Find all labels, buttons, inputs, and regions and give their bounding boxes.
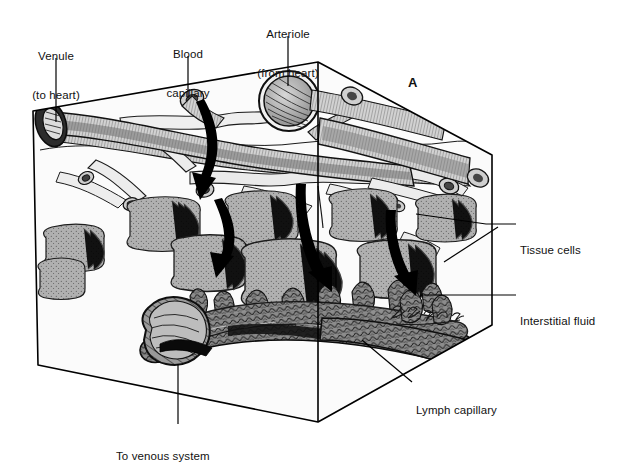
label-interstitial-fluid-text: Interstitial fluid xyxy=(520,315,618,328)
label-blood-capillary-line2: capillary xyxy=(138,87,238,100)
label-arteriole-line2: (from heart) xyxy=(229,67,347,80)
label-to-venous-system-text: To venous system xyxy=(116,450,256,463)
label-venule-line1: Venule xyxy=(6,50,106,63)
label-tissue-cells: Tissue cells xyxy=(520,218,616,270)
label-venule-line2: (to heart) xyxy=(6,89,106,102)
panel-letter: A xyxy=(408,76,418,89)
label-arteriole: Arteriole (from heart) xyxy=(229,2,347,93)
tissue-cell xyxy=(171,235,246,292)
label-blood-capillary-line1: Blood xyxy=(138,48,238,61)
label-blood-capillary: Blood capillary xyxy=(138,22,238,113)
lymph-capillary-cut-end xyxy=(142,297,212,365)
label-tissue-cells-text: Tissue cells xyxy=(520,244,616,257)
label-lymph-capillary-text: Lymph capillary xyxy=(416,404,536,417)
label-arteriole-line1: Arteriole xyxy=(229,28,347,41)
label-lymph-capillary: Lymph capillary xyxy=(416,378,536,430)
label-venule: Venule (to heart) xyxy=(6,24,106,115)
label-interstitial-fluid: Interstitial fluid xyxy=(520,289,618,341)
label-to-venous-system: To venous system xyxy=(116,424,256,466)
tissue-cell xyxy=(38,258,85,300)
